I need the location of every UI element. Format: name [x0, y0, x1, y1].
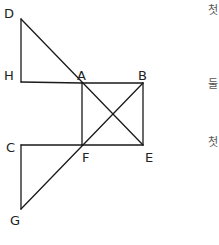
side-note-2: 첫 [208, 136, 218, 149]
point-label-h: H [4, 68, 14, 83]
diagram-segments [21, 19, 143, 209]
point-label-a: A [77, 68, 86, 83]
point-label-c: C [6, 140, 15, 155]
segment-ha [21, 82, 82, 83]
point-labels: DHABCFEG [4, 6, 153, 228]
point-label-g: G [10, 213, 20, 228]
side-notes: 첫둘첫 [208, 4, 218, 149]
point-label-b: B [138, 68, 147, 83]
point-label-e: E [145, 150, 153, 165]
point-label-d: D [4, 6, 14, 21]
side-note-0: 첫 [208, 4, 218, 17]
side-note-1: 둘 [208, 78, 218, 91]
geometry-diagram: DHABCFEG 첫둘첫 [0, 0, 219, 245]
point-label-f: F [82, 150, 89, 165]
